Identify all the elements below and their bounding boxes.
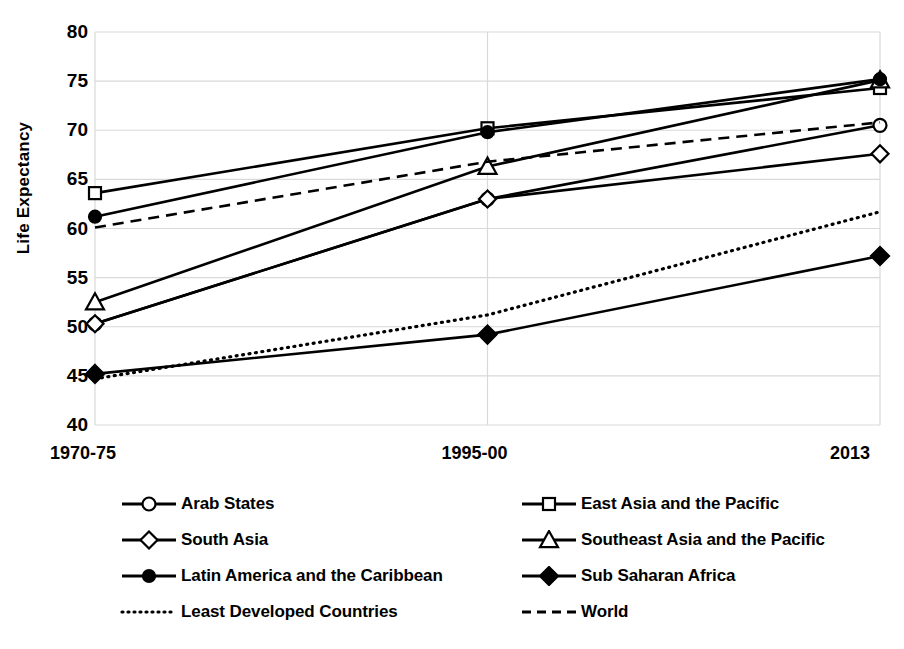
data-point-marker	[543, 498, 555, 510]
data-point-marker	[874, 73, 886, 85]
legend-item-latin-america-and-the-caribbean[interactable]: Latin America and the Caribbean	[120, 566, 520, 586]
legend-row: Arab StatesEast Asia and the Pacific	[120, 486, 890, 522]
legend-swatch-open-diamond	[120, 530, 178, 550]
data-point-marker	[479, 326, 497, 344]
data-point-marker	[874, 119, 887, 132]
legend-item-south-asia[interactable]: South Asia	[120, 530, 520, 550]
legend-label: Sub Saharan Africa	[581, 566, 735, 586]
x-tick-1995-00: 1995-00	[442, 443, 508, 464]
data-point-marker	[141, 532, 158, 549]
legend-label: Least Developed Countries	[181, 602, 398, 622]
legend-item-world[interactable]: World	[520, 602, 628, 622]
legend-label: Southeast Asia and the Pacific	[581, 530, 825, 550]
legend-label: Latin America and the Caribbean	[181, 566, 443, 586]
legend-swatch-none	[520, 602, 578, 622]
legend-swatch-none	[120, 602, 178, 622]
gridlines	[95, 32, 880, 425]
data-point-marker	[87, 315, 104, 332]
data-point-marker	[89, 187, 101, 199]
data-point-marker	[143, 498, 156, 511]
x-tick-1970-75: 1970-75	[50, 443, 116, 464]
legend-label: East Asia and the Pacific	[581, 494, 779, 514]
data-point-marker	[872, 145, 889, 162]
x-tick-2013: 2013	[830, 443, 870, 464]
legend-item-least-developed-countries[interactable]: Least Developed Countries	[120, 602, 520, 622]
legend-row: Latin America and the CaribbeanSub Sahar…	[120, 558, 890, 594]
life-expectancy-line-chart: 404550556065707580 Life Expectancy 1970-…	[0, 0, 904, 649]
chart-legend: Arab StatesEast Asia and the PacificSout…	[120, 486, 890, 630]
legend-label: World	[581, 602, 628, 622]
plot-area	[0, 0, 904, 470]
legend-row: South AsiaSoutheast Asia and the Pacific	[120, 522, 890, 558]
data-point-marker	[143, 570, 155, 582]
legend-item-arab-states[interactable]: Arab States	[120, 494, 520, 514]
legend-swatch-filled-circle	[120, 566, 178, 586]
legend-label: Arab States	[181, 494, 274, 514]
legend-item-sub-saharan-africa[interactable]: Sub Saharan Africa	[520, 566, 735, 586]
data-point-marker	[540, 567, 558, 585]
legend-swatch-open-circle	[120, 494, 178, 514]
data-point-marker	[479, 191, 496, 208]
legend-swatch-open-square	[520, 494, 578, 514]
data-point-marker	[89, 211, 101, 223]
legend-row: Least Developed CountriesWorld	[120, 594, 890, 630]
legend-label: South Asia	[181, 530, 268, 550]
legend-swatch-filled-diamond	[520, 566, 578, 586]
legend-swatch-open-triangle	[520, 530, 578, 550]
data-point-marker	[871, 247, 889, 265]
legend-item-east-asia-and-the-pacific[interactable]: East Asia and the Pacific	[520, 494, 779, 514]
data-point-marker	[482, 126, 494, 138]
legend-item-southeast-asia-and-the-pacific[interactable]: Southeast Asia and the Pacific	[520, 530, 825, 550]
